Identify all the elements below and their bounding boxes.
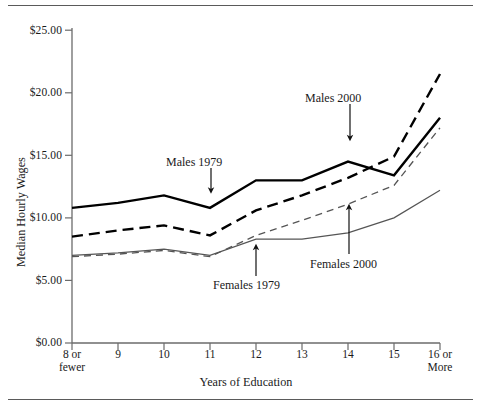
x-axis-ticks [72,343,440,350]
annotation-arrows [211,104,350,276]
series-line-males-1979 [72,118,440,208]
series-line-males-2000 [72,74,440,237]
series-line-females-1979 [72,190,440,255]
series-lines [72,74,440,257]
plot-area [0,0,481,411]
y-axis-ticks [65,30,72,343]
series-line-females-2000 [72,128,440,257]
figure-container: $25.00 $20.00 $15.00 $10.00 $5.00 $0.00 … [0,0,481,411]
